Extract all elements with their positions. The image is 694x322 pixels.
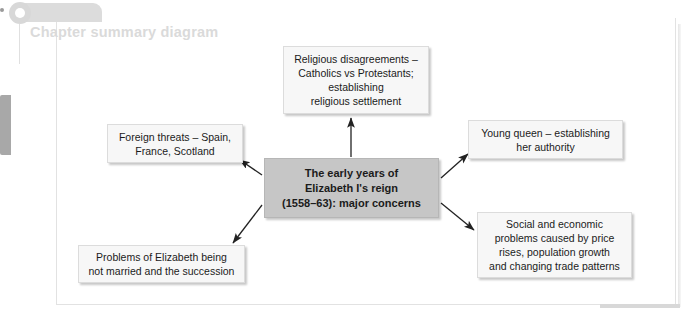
left-edge-dot-icon [0,8,4,12]
header-stem-divider [19,24,20,64]
diagram-node-succession[interactable]: Problems of Elizabeth being not married … [78,245,245,283]
frame-bottom-marker [600,304,680,308]
diagram-node-religious[interactable]: Religious disagreements – Catholics vs P… [283,46,429,114]
page-title: Chapter summary diagram [30,24,218,40]
ring-icon [9,2,31,24]
left-edge-tab [0,95,11,155]
diagram-node-young-queen[interactable]: Young queen – establishing her authority [468,120,623,159]
page-root: Chapter summary diagram Religious disagr… [0,0,694,322]
diagram-node-social-economic[interactable]: Social and economic problems caused by p… [477,212,632,278]
header-tab-bar [22,3,102,22]
frame-right-shadow [678,24,681,307]
diagram-node-center[interactable]: The early years of Elizabeth I's reign (… [264,158,439,218]
diagram-node-foreign[interactable]: Foreign threats – Spain, France, Scotlan… [107,124,243,163]
